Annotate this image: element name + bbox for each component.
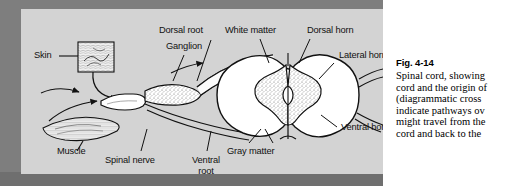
caption-line: (diagrammatic cross (396, 93, 514, 105)
skin-patch (78, 42, 114, 72)
panel-shadow-left (0, 0, 21, 178)
caption-line: cord and back to the (396, 128, 514, 140)
caption-line: might travel from the (396, 116, 514, 128)
label-gray-matter: Gray matter (227, 146, 274, 156)
caption-line: indicate pathways ov (396, 105, 514, 117)
label-dorsal-root: Dorsal root (159, 25, 203, 35)
ganglion-shape (145, 85, 201, 106)
label-lateral-horn: Lateral horn (339, 50, 383, 60)
spinal-nerve-leader (141, 129, 147, 151)
sensory-arrow-left (41, 89, 79, 93)
label-ventral-horn: Ventral horn (341, 122, 383, 132)
label-skin: Skin (34, 50, 52, 60)
figure-panel: Skin Muscle Dorsal root Ganglion White m… (21, 9, 383, 174)
figure-page: Skin Muscle Dorsal root Ganglion White m… (0, 0, 514, 186)
label-ventral-root-line2: root (181, 166, 231, 174)
sensory-arrow-skin (93, 72, 117, 99)
muscle-shape (43, 117, 119, 140)
label-spinal-nerve: Spinal nerve (105, 155, 155, 165)
label-ganglion: Ganglion (166, 41, 202, 51)
caption-line: cord and the origin of (396, 82, 514, 94)
figure-caption: Fig. 4-14 Spinal cord, showing cord and … (396, 57, 514, 140)
panel-shadow-top (0, 0, 383, 9)
label-muscle: Muscle (57, 146, 86, 156)
label-ventral-root-line1: Ventral (181, 155, 231, 165)
spinal-cord-diagram: Skin Muscle Dorsal root Ganglion White m… (21, 9, 383, 174)
panel-shadow-bottom (0, 172, 383, 186)
label-white-matter: White matter (225, 25, 276, 35)
dorsal-root-arrow (171, 63, 203, 73)
caption-line: Spinal cord, showing (396, 70, 514, 82)
ventral-root-leader (207, 131, 211, 151)
caption-figure-number: Fig. 4-14 (396, 57, 514, 69)
label-dorsal-horn: Dorsal horn (307, 25, 353, 35)
